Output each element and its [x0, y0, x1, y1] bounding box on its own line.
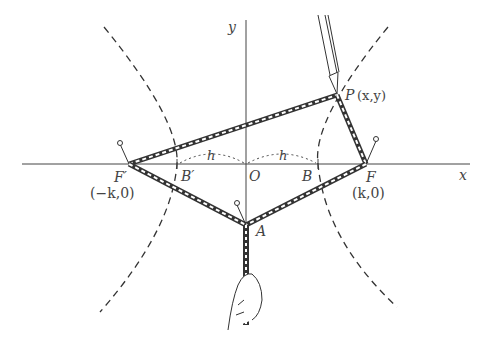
origin-label: O [249, 168, 261, 184]
y-axis-label: y [227, 19, 237, 35]
b-label: B [301, 168, 312, 184]
f-label: F [365, 169, 377, 185]
h-label-right: h [279, 148, 287, 163]
a-label: A [254, 223, 266, 239]
p-label: P [344, 87, 355, 103]
f-coords: (k,0) [352, 185, 385, 201]
p-coords: (x,y) [357, 88, 386, 103]
f-prime-coords: (−k,0) [90, 185, 135, 201]
x-axis-label: x [459, 167, 467, 183]
pencil-icon [318, 15, 339, 94]
hand-icon [228, 274, 262, 330]
pin-f-prime [118, 141, 130, 165]
h-label-left: h [207, 148, 215, 163]
f-prime-label: F′ [113, 169, 128, 185]
pin-f [366, 137, 379, 165]
hyperbola-diagram: y x O F′ (−k,0) B′ B F (k,0) P (x,y) A h… [0, 0, 480, 345]
b-prime-label: B′ [180, 168, 195, 184]
